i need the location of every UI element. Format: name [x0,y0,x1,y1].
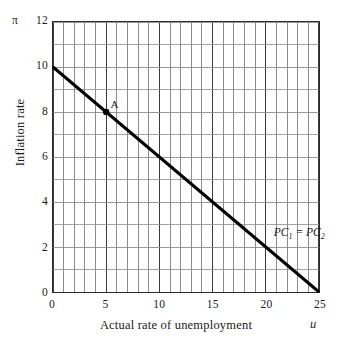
x-axis-symbol: u [310,317,316,332]
phillips-curve-figure: π Inflation rate 121086420 PC1 = PC2A 05… [0,0,340,345]
series-line-0 [53,67,319,292]
y-tick-label: 6 [22,151,48,163]
y-axis-tick-labels: 121086420 [16,21,48,293]
y-tick-label: 12 [22,15,48,27]
data-point-a [103,109,109,115]
x-axis-tick-labels: 0510152025 [52,299,320,315]
x-tick-label: 20 [251,299,281,311]
x-tick-label: 5 [91,299,121,311]
x-tick-label: 10 [144,299,174,311]
y-tick-label: 2 [22,242,48,254]
series-layer [53,22,319,292]
data-point-label-a: A [111,99,119,110]
y-tick-label: 10 [22,60,48,72]
x-tick-label: 0 [37,299,67,311]
y-tick-label: 8 [22,106,48,118]
curve-label: PC1 = PC2 [274,226,325,243]
x-axis-title: Actual rate of unemployment [52,318,300,333]
x-tick-label: 25 [305,299,335,311]
x-tick-label: 15 [198,299,228,311]
y-tick-label: 4 [22,196,48,208]
plot-area: PC1 = PC2A [52,21,320,293]
y-tick-label: 0 [22,287,48,299]
